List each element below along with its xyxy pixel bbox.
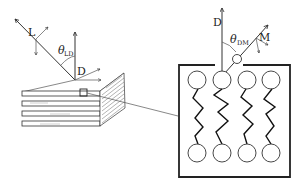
right-panel: D θ DM M [179, 8, 290, 177]
diagram-canvas: L D θ LD [0, 0, 303, 182]
m-label: M [259, 31, 270, 44]
top-leaflet [188, 71, 280, 89]
lipid-tails [193, 89, 275, 144]
theta-ld-subscript: LD [64, 50, 74, 58]
left-panel: L D θ LD [15, 19, 178, 126]
theta-dm-label: θ [230, 33, 237, 46]
l-label: L [28, 26, 36, 39]
lamellar-stack [22, 73, 125, 126]
bottom-leaflet [188, 144, 280, 162]
d-label-left: D [77, 65, 86, 78]
probe-circle [233, 55, 242, 64]
theta-dm-subscript: DM [237, 39, 249, 47]
d-label-right: D [213, 16, 222, 29]
